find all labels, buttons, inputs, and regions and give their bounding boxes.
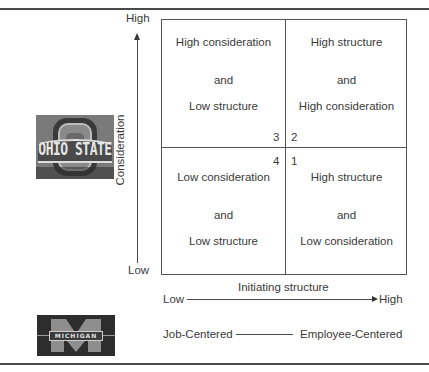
logo-line (103, 335, 115, 336)
quadrant-3: High consideration and Low structure (162, 36, 285, 112)
employee-centered-label: Employee-Centered (300, 329, 402, 341)
quadrant-grid: High consideration and Low structure 3 H… (161, 19, 407, 275)
quadrant-line: and (285, 209, 408, 221)
michigan-logo: MICHIGAN (37, 315, 115, 356)
grid-horizontal-divider (162, 147, 406, 148)
quadrant-1: High structure and Low consideration (285, 171, 408, 247)
quadrant-line: Low consideration (162, 171, 285, 183)
bottom-rule (0, 363, 429, 365)
top-rule (0, 8, 429, 10)
quadrant-line: and (162, 74, 285, 86)
logo-shade (36, 167, 114, 179)
quadrant-4: Low consideration and Low structure (162, 171, 285, 247)
ohio-state-logo: OHIO STATE (36, 115, 114, 179)
y-axis-line (137, 38, 138, 263)
quadrant-line: High consideration (285, 100, 408, 112)
quadrant-number: 3 (273, 132, 279, 144)
quadrant-line: High consideration (162, 36, 285, 48)
quadrant-2: High structure and High consideration (285, 36, 408, 112)
x-axis-high-label: High (379, 294, 403, 306)
quadrant-number: 2 (291, 132, 297, 144)
x-axis-line (187, 299, 372, 300)
ohio-state-wordmark: OHIO STATE (36, 137, 114, 164)
x-axis-low-label: Low (163, 294, 184, 306)
quadrant-number: 4 (273, 156, 279, 168)
x-axis-title: Initiating structure (238, 282, 329, 294)
quadrant-line: Low consideration (285, 235, 408, 247)
y-axis-low-label: Low (128, 265, 149, 277)
job-centered-label: Job-Centered (163, 329, 233, 341)
quadrant-line: and (285, 74, 408, 86)
quadrant-line: High structure (285, 36, 408, 48)
quadrant-line: Low structure (162, 235, 285, 247)
quadrant-line: and (162, 209, 285, 221)
michigan-wordmark: MICHIGAN (49, 331, 103, 341)
y-axis-high-label: High (126, 13, 150, 25)
michigan-scale-line (236, 334, 293, 335)
y-axis-title: Consideration (114, 115, 126, 186)
quadrant-line: High structure (285, 171, 408, 183)
quadrant-number: 1 (291, 156, 297, 168)
x-axis-arrow-icon (372, 296, 378, 302)
quadrant-line: Low structure (162, 100, 285, 112)
logo-line (37, 335, 49, 336)
